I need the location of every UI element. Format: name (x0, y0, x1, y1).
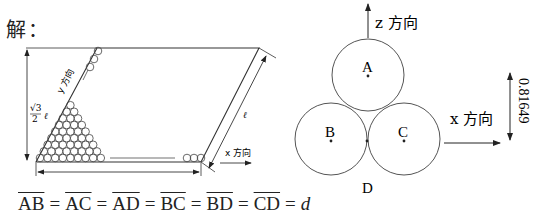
z-direction-label: z 方向 (375, 14, 418, 32)
segment-bd: BD (207, 193, 233, 214)
side-label: ℓ (243, 110, 247, 120)
point-d-label: D (362, 180, 373, 196)
segment-ac: AC (65, 193, 91, 214)
segment-cd: CD (254, 193, 280, 214)
diagram-canvas: y 方向 √3 2 ℓ ℓ x 方向 z 方向 x 方向 A B C D 0.8… (0, 0, 538, 223)
formula: AB=AC=AD=BC=BD=CD=d (18, 193, 310, 215)
x-direction-label-left: x 方向 (225, 147, 251, 158)
segment-ad: AD (112, 193, 139, 214)
distance-d: d (301, 193, 311, 214)
height-label-var: ℓ (44, 111, 48, 121)
height-label-den: 2 (32, 114, 38, 124)
y-direction-label: y 方向 (54, 67, 76, 95)
point-b-label: B (325, 124, 335, 140)
x-direction-label-right: x 方向 (450, 110, 493, 128)
segment-bc: BC (160, 193, 185, 214)
dimension-value: 0.81649 (516, 78, 531, 124)
point-a-label: A (362, 59, 373, 75)
segment-ab: AB (18, 193, 44, 214)
point-c-label: C (398, 124, 408, 140)
packed-circles (86, 47, 205, 162)
height-label-num: √3 (30, 103, 42, 113)
